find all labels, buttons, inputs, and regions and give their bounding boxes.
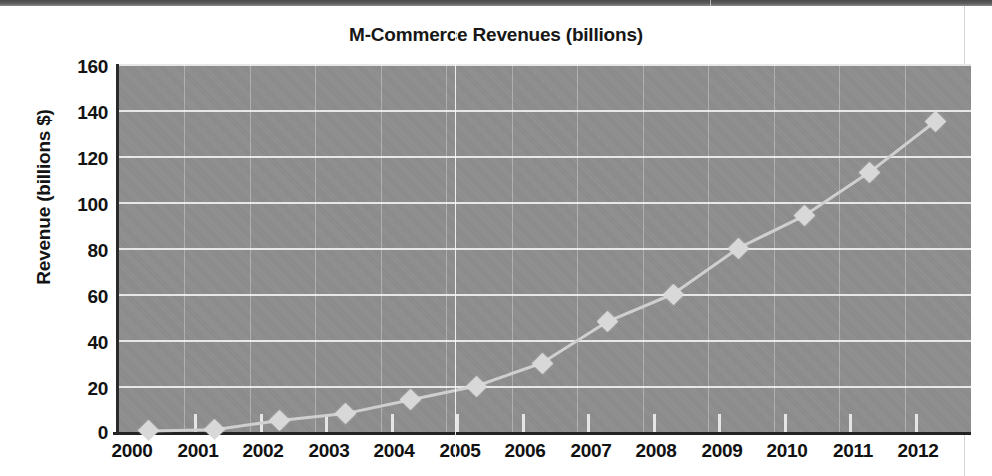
x-minor-tick [522,414,525,432]
vertical-separator [446,64,447,432]
gridline-20 [119,386,971,388]
vertical-separator [381,64,382,432]
x-minor-tick [849,414,852,432]
x-minor-tick [718,414,721,432]
y-tick-label-140: 140 [18,102,108,124]
gridline-60 [119,294,971,296]
vertical-separator [774,64,775,432]
x-minor-tick [653,414,656,432]
x-tick-label-2011: 2011 [817,440,889,462]
x-minor-tick [456,414,459,432]
y-tick-label-0: 0 [18,422,108,444]
x-minor-tick [915,414,918,432]
x-axis-line [113,432,971,435]
y-tick-label-20: 20 [18,378,108,400]
x-minor-tick [325,414,328,432]
gridline-100 [119,202,971,204]
gridline-40 [119,340,971,342]
chart-figure: M-Commerce Revenues (billions) Revenue (… [0,0,992,476]
vertical-separator [315,64,316,432]
vertical-separator [643,64,644,432]
x-minor-tick [784,414,787,432]
x-minor-tick [194,414,197,432]
x-tick-label-2002: 2002 [227,440,299,462]
plot-area [116,64,971,432]
gridline-80 [119,248,971,250]
y-tick-label-100: 100 [18,194,108,216]
vertical-separator [512,64,513,432]
x-tick-label-2010: 2010 [751,440,823,462]
gridline-120 [119,156,971,158]
x-tick-label-2001: 2001 [162,440,234,462]
page-guide-vertical-line [455,6,456,476]
x-tick-label-2006: 2006 [489,440,561,462]
y-tick-label-120: 120 [18,148,108,170]
x-tick-label-2009: 2009 [686,440,758,462]
vertical-separator [577,64,578,432]
x-tick-label-2007: 2007 [555,440,627,462]
x-tick-label-2008: 2008 [620,440,692,462]
vertical-separator [708,64,709,432]
x-minor-tick [391,414,394,432]
y-tick-label-60: 60 [18,286,108,308]
gridline-160 [119,64,971,66]
x-minor-tick [587,414,590,432]
chart-title: M-Commerce Revenues (billions) [0,24,992,46]
x-tick-label-2012: 2012 [882,440,954,462]
vertical-separator [250,64,251,432]
y-tick-label-160: 160 [18,56,108,78]
vertical-separator [905,64,906,432]
x-tick-label-2005: 2005 [424,440,496,462]
x-tick-label-2000: 2000 [96,440,168,462]
y-tick-label-80: 80 [18,240,108,262]
vertical-separator [184,64,185,432]
x-tick-label-2004: 2004 [358,440,430,462]
x-tick-label-2003: 2003 [293,440,365,462]
vertical-separator [839,64,840,432]
gridline-140 [119,110,971,112]
x-minor-tick [260,414,263,432]
y-tick-label-40: 40 [18,332,108,354]
